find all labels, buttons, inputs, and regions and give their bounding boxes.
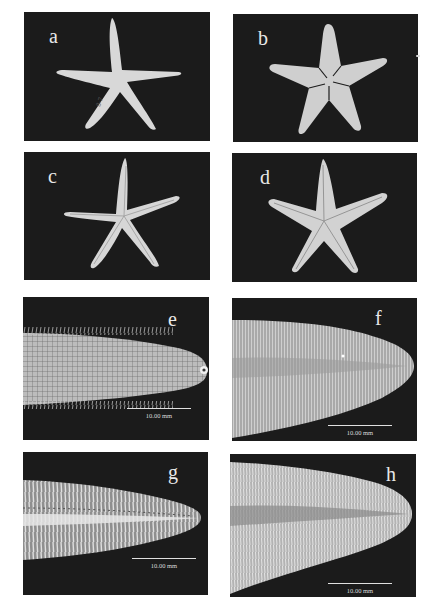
- scale-label: 10.00 mm: [328, 587, 392, 594]
- scale-bar-h: 10.00 mm: [328, 583, 392, 597]
- panel-label-h: h: [386, 464, 396, 484]
- scale-label: 10.00 mm: [127, 412, 191, 419]
- scale-line: [328, 583, 392, 584]
- panel-b: b: [233, 14, 418, 142]
- panel-d: d: [232, 153, 417, 282]
- scale-bar-f: 10.00 mm: [328, 425, 392, 439]
- panel-a: 8-7 a: [24, 12, 210, 141]
- panel-e: e 10.00 mm: [23, 297, 209, 440]
- panel-label-g: g: [168, 462, 178, 482]
- scale-bar-e: 10.00 mm: [127, 408, 191, 422]
- panel-label-d: d: [260, 167, 270, 187]
- scale-line: [132, 558, 196, 559]
- scale-line: [127, 408, 191, 409]
- panel-c: c: [24, 152, 210, 280]
- arm-g-image: [23, 452, 208, 595]
- panel-g: g 10.00 mm: [23, 452, 208, 595]
- scale-line: [328, 425, 392, 426]
- panel-f: f 10.00 mm: [232, 298, 417, 441]
- panel-label-a: a: [49, 26, 58, 46]
- panel-label-f: f: [375, 308, 382, 328]
- edge-mark: [416, 55, 420, 57]
- panel-label-b: b: [258, 28, 268, 48]
- scale-label: 10.00 mm: [132, 562, 196, 569]
- arm-f-image: [232, 298, 417, 441]
- panel-label-c: c: [48, 166, 57, 186]
- panel-label-e: e: [168, 309, 177, 329]
- scale-label: 10.00 mm: [328, 429, 392, 436]
- panel-h: h 10.00 mm: [230, 454, 416, 597]
- scale-bar-g: 10.00 mm: [132, 558, 196, 572]
